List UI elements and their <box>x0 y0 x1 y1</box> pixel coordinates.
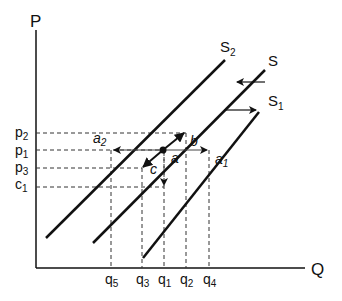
supply-shift-diagram: P Q S2 S S1 p2 p1 p3 c1 q5 q3 q1 q2 q4 a… <box>0 0 342 301</box>
y-axis-label: P <box>30 12 41 31</box>
quantity-label-q2: q2 <box>180 271 194 289</box>
point-label-a: a <box>171 150 179 166</box>
curve-label-s1: S1 <box>268 92 284 112</box>
point-label-a2: a2 <box>93 130 107 148</box>
equilibrium-point-a <box>160 147 167 154</box>
curve-label-s: S <box>268 52 278 69</box>
quantity-label-q4: q4 <box>203 271 217 289</box>
price-label-p1: p1 <box>15 142 29 160</box>
curve-label-s2: S2 <box>220 38 236 58</box>
x-axis-label: Q <box>311 260 324 279</box>
quantity-label-q5: q5 <box>105 271 119 289</box>
supply-curve-s <box>93 70 265 243</box>
point-label-b: b <box>190 133 198 149</box>
price-label-p2: p2 <box>15 124 29 142</box>
quantity-label-q3: q3 <box>136 271 150 289</box>
price-label-c1: c1 <box>15 176 28 194</box>
price-label-p3: p3 <box>15 159 29 177</box>
arrow-a-to-b <box>163 133 184 150</box>
point-label-c: c <box>150 161 157 177</box>
quantity-label-q1: q1 <box>158 271 172 289</box>
supply-curve-s2 <box>46 60 225 238</box>
